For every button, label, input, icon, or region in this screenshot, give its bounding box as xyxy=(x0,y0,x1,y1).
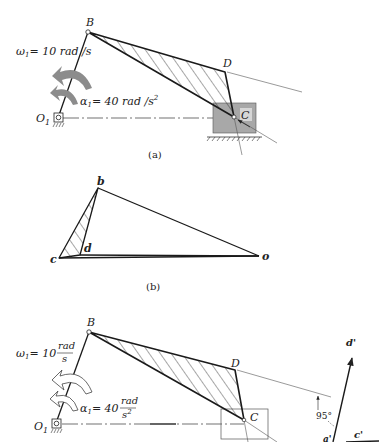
line-bo xyxy=(98,188,259,256)
joint-b-c xyxy=(87,330,91,334)
line-do xyxy=(80,255,259,256)
d-extension-line-c xyxy=(237,370,331,397)
alpha-label: α1= 40 rad /s2 xyxy=(80,94,159,109)
label-b-small: b xyxy=(97,175,105,188)
vector-a-d-prime xyxy=(333,358,352,442)
label-o1-c: O1 xyxy=(34,420,48,435)
label-c: C xyxy=(241,109,250,122)
label-b: B xyxy=(85,16,94,29)
figure-b: b c d o (b) xyxy=(50,175,269,292)
caption-b: (b) xyxy=(146,281,160,292)
figure-a: B D C O1 ω1= 10 rad /s α1= 40 rad /s2 (a… xyxy=(16,16,302,160)
omega-rotation-arrow-icon xyxy=(52,66,92,90)
omega-numerator: rad xyxy=(58,340,75,351)
mechanism-diagram: B D C O1 ω1= 10 rad /s α1= 40 rad /s2 (a… xyxy=(0,0,379,442)
label-c-c: C xyxy=(250,411,259,424)
label-o1: O1 xyxy=(36,112,50,127)
figure-c: B D C O1 d' c' a' 95° ω1= 10 rad s α1= 4… xyxy=(16,316,379,442)
label-b-c: B xyxy=(86,316,95,329)
d-extension-line xyxy=(227,72,302,92)
pivot-o1 xyxy=(53,113,64,127)
label-c-small: c xyxy=(50,253,57,266)
ground-hatch xyxy=(207,137,260,141)
caption-a: (a) xyxy=(148,149,162,160)
label-o-small: o xyxy=(262,250,269,263)
pivot-o1-c xyxy=(51,419,62,433)
joint-c-c xyxy=(242,418,246,422)
omega-rotation-arrow-icon-c xyxy=(52,370,92,394)
alpha-denominator: s2 xyxy=(122,408,132,420)
omega-label-c: ω1= 10 xyxy=(16,347,56,361)
omega-label: ω1= 10 rad /s xyxy=(16,45,92,59)
label-c-prime: c' xyxy=(354,429,363,440)
label-a-prime: a' xyxy=(323,434,332,442)
label-d-c: D xyxy=(230,357,240,370)
joint-b xyxy=(86,30,90,34)
label-d-prime: d' xyxy=(346,337,356,348)
alpha-label-c: α1= 40 xyxy=(80,402,119,416)
angle-label: 95° xyxy=(316,411,332,421)
label-d: D xyxy=(222,57,232,70)
alpha-rotation-arrow-icon-c xyxy=(50,391,78,411)
joint-c xyxy=(232,115,236,119)
alpha-numerator: rad xyxy=(121,395,138,406)
omega-denominator: s xyxy=(62,353,67,364)
label-d-small: d xyxy=(84,242,92,255)
angle-arc xyxy=(328,421,334,426)
hatched-triangle-bcd xyxy=(59,188,98,258)
